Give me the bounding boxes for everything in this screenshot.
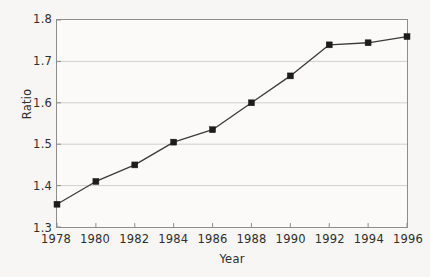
- x-axis-tick-label: 1988: [237, 232, 267, 246]
- x-axis-tick-label: 1996: [393, 232, 423, 246]
- data-series-ratio: [57, 20, 407, 227]
- x-axis-tick-label: 1994: [354, 232, 384, 246]
- x-axis-tick-label: 1984: [158, 232, 188, 246]
- chart-figure: Ratio 1.31.41.51.61.71.8 197819801982198…: [0, 0, 430, 277]
- y-axis-tick-label: 1.4: [10, 179, 52, 193]
- x-axis-tick-label: 1986: [197, 232, 227, 246]
- y-axis-tick-label: 1.8: [10, 12, 52, 26]
- x-axis-tick-labels: 1978198019821984198619881990199219941996: [56, 232, 408, 250]
- plot-area: [56, 19, 408, 228]
- x-axis-tick-label: 1978: [41, 232, 71, 246]
- y-axis-tick-label: 1.6: [10, 96, 52, 110]
- x-axis-tick-label: 1990: [276, 232, 306, 246]
- x-axis-tick-label: 1992: [315, 232, 345, 246]
- x-axis-tick-label: 1982: [119, 232, 149, 246]
- x-axis-tick-label: 1980: [80, 232, 110, 246]
- y-axis-tick-label: 1.5: [10, 137, 52, 151]
- y-axis-tick-labels: 1.31.41.51.61.71.8: [6, 19, 52, 228]
- y-axis-tick-label: 1.7: [10, 54, 52, 68]
- x-axis-title: Year: [219, 252, 244, 266]
